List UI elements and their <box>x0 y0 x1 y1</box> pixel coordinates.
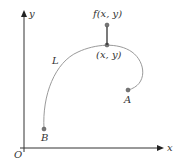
function-value-label: f(x, y) <box>92 8 122 19</box>
point-fxy <box>105 23 109 27</box>
point-xy-label: (x, y) <box>96 49 122 60</box>
origin-label: O <box>14 149 22 160</box>
point-A <box>126 88 130 92</box>
curve-label: L <box>51 55 59 66</box>
x-axis-label: x <box>167 142 173 153</box>
curve-L <box>44 45 143 129</box>
y-axis-label: y <box>28 8 35 19</box>
line-integral-diagram: y x O L B A (x, y) f(x, y) <box>0 0 184 168</box>
x-axis-arrow-icon <box>157 145 164 151</box>
y-axis-arrow-icon <box>21 10 27 17</box>
point-B-label: B <box>40 132 48 143</box>
point-A-label: A <box>123 94 131 105</box>
point-B <box>42 127 46 131</box>
